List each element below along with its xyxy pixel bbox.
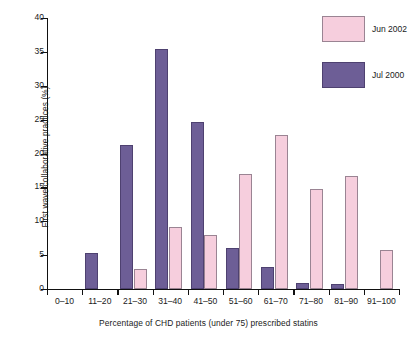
bar-71-80-jun-2002 [310,189,323,289]
bar-81-90-jul-2000 [331,284,344,289]
y-tick-label: 35 [35,46,44,56]
y-tick-label: 20 [35,148,44,158]
x-tick-mark [117,289,118,295]
x-tick-mark [47,289,48,295]
bar-41-50-jul-2000 [191,122,204,289]
bar-21-30-jul-2000 [120,145,133,289]
x-axis-label: 11–20 [88,296,111,306]
legend-swatch-jul-2000 [322,62,365,88]
x-axis-label: 91–100 [367,296,396,306]
bar-41-50-jun-2002 [204,235,217,289]
bar-51-60-jun-2002 [239,174,252,289]
bar-51-60-jul-2000 [226,248,239,289]
x-tick-mark [293,289,294,295]
y-tick-label: 15 [35,181,44,191]
y-tick-label: 10 [35,215,44,225]
x-tick-mark [223,289,224,295]
bar-21-30-jun-2002 [134,269,147,289]
bar-61-70-jun-2002 [275,135,288,289]
bar-31-40-jul-2000 [155,49,168,289]
x-axis-label: 81–90 [334,296,358,306]
legend-swatch-jun-2002 [322,16,365,42]
x-tick-mark [364,289,365,295]
x-axis-label: 0–10 [55,296,74,306]
legend-label-jun-2002: Jun 2002 [372,24,407,34]
x-axis-label: 51–60 [229,296,253,306]
bar-71-80-jul-2000 [296,283,309,289]
legend-label-jul-2000: Jul 2000 [372,70,404,80]
x-tick-mark [399,289,400,295]
x-axis-label: 31–40 [158,296,182,306]
x-axis-label: 61–70 [264,296,288,306]
x-axis-label: 71–80 [299,296,323,306]
x-tick-mark [258,289,259,295]
x-axis-title: Percentage of CHD patients (under 75) pr… [0,318,417,328]
bar-11-20-jul-2000 [85,253,98,289]
y-axis-line [47,18,48,289]
bar-chart: First wave collaborative practices (%) 0… [0,0,417,340]
bar-61-70-jul-2000 [261,267,274,289]
x-tick-mark [82,289,83,295]
x-tick-mark [188,289,189,295]
plot-area: 0510152025303540 0–1011–2021–3031–4041–5… [47,18,399,289]
y-tick-label: 40 [35,12,44,22]
bar-91-100-jun-2002 [380,250,393,289]
y-tick-label: 0 [39,283,44,293]
y-tick-label: 30 [35,80,44,90]
x-axis-label: 41–50 [193,296,217,306]
x-axis-label: 21–30 [123,296,147,306]
y-tick-label: 5 [39,249,44,259]
x-tick-mark [153,289,154,295]
x-tick-mark [329,289,330,295]
bar-31-40-jun-2002 [169,227,182,289]
y-tick-label: 25 [35,114,44,124]
bar-81-90-jun-2002 [345,176,358,289]
